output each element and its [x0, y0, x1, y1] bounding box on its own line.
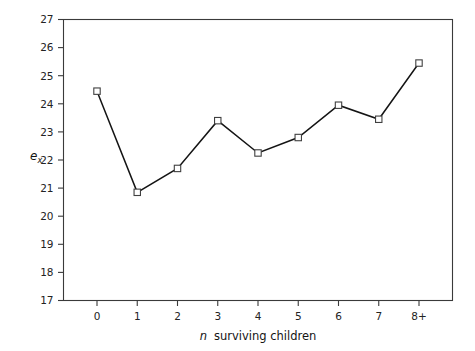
- y-tick-label: 21: [40, 182, 53, 194]
- y-tick-label: 26: [40, 41, 54, 53]
- data-point-marker: [295, 134, 301, 140]
- y-tick-label: 19: [40, 238, 53, 250]
- data-point-marker: [94, 88, 100, 94]
- x-tick-label: 0: [94, 310, 101, 322]
- y-axis-title-sub: x: [36, 156, 42, 165]
- x-axis-title: nsurviving children: [200, 329, 317, 343]
- data-point-marker: [215, 117, 221, 123]
- y-tick-label: 20: [40, 210, 53, 222]
- y-tick-label: 25: [40, 70, 53, 82]
- y-axis-title-base: e: [30, 149, 37, 163]
- x-tick-label: 4: [255, 310, 262, 322]
- x-tick-label: 8+: [411, 310, 426, 322]
- x-tick-label: 3: [214, 310, 221, 322]
- x-axis-title-rest: surviving children: [214, 329, 316, 343]
- data-point-marker: [335, 102, 341, 108]
- chart-background: [0, 0, 475, 351]
- x-tick-label: 1: [134, 310, 141, 322]
- x-tick-label: 5: [295, 310, 302, 322]
- data-point-marker: [376, 116, 382, 122]
- data-point-marker: [416, 60, 422, 66]
- y-tick-label: 27: [40, 13, 53, 25]
- y-tick-label: 24: [40, 98, 54, 110]
- x-tick-label: 7: [375, 310, 382, 322]
- chart-figure: 1718192021222324252627 012345678+ ex nsu…: [0, 0, 475, 351]
- data-point-marker: [174, 165, 180, 171]
- line-chart-svg: 1718192021222324252627 012345678+ ex nsu…: [0, 0, 475, 351]
- y-tick-label: 18: [40, 266, 53, 278]
- x-tick-label: 6: [335, 310, 342, 322]
- y-tick-label: 22: [40, 154, 53, 166]
- data-point-marker: [255, 150, 261, 156]
- y-tick-label: 23: [40, 126, 53, 138]
- y-tick-label: 17: [40, 294, 53, 306]
- x-axis-title-italic: n: [200, 329, 207, 343]
- x-tick-label: 2: [174, 310, 181, 322]
- data-point-marker: [134, 189, 140, 195]
